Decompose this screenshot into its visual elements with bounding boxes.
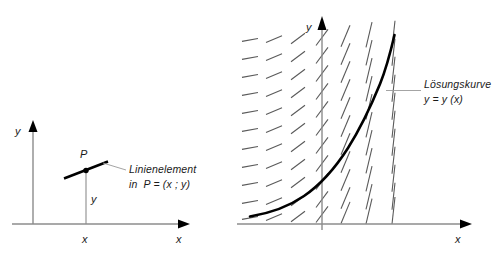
solution-curve-annotation-line1: Lösungskurve	[424, 78, 491, 90]
direction-field-ticks	[242, 21, 395, 224]
right-y-axis-arrowhead	[318, 16, 327, 30]
field-column-7	[392, 21, 395, 224]
ordinate-label-y: y	[90, 193, 98, 205]
figure-root: x y x y P Linienelement in P = (x ; y)	[0, 0, 504, 255]
field-column-1	[242, 39, 258, 220]
solution-curve-annotation-line2: y = y (x)	[423, 93, 463, 105]
point-p-label: P	[80, 148, 88, 160]
line-element-annotation-line1: Linienelement	[129, 163, 197, 175]
line-element-panel: x y x y P Linienelement in P = (x ; y)	[12, 120, 197, 245]
line-element-annotation-line2: in P = (x ; y)	[129, 178, 190, 190]
left-annotation-leader	[103, 163, 126, 170]
field-column-6	[366, 22, 372, 224]
direction-field-panel: x y Lösungskurve y = y (x)	[237, 16, 491, 245]
left-y-axis-label: y	[14, 125, 22, 137]
right-x-axis-label: x	[454, 233, 461, 245]
left-y-axis-arrowhead	[29, 120, 38, 132]
point-p-marker	[83, 168, 88, 173]
right-x-axis-arrowhead	[460, 220, 472, 229]
field-column-5	[341, 25, 350, 223]
left-x-axis-label: x	[175, 233, 182, 245]
right-y-axis-label: y	[305, 21, 313, 33]
abscissa-tick-label-x: x	[81, 233, 88, 245]
field-column-3	[291, 33, 305, 222]
field-column-2	[266, 36, 282, 221]
left-x-axis-arrowhead	[178, 220, 190, 229]
figure-svg: x y x y P Linienelement in P = (x ; y)	[0, 0, 504, 255]
